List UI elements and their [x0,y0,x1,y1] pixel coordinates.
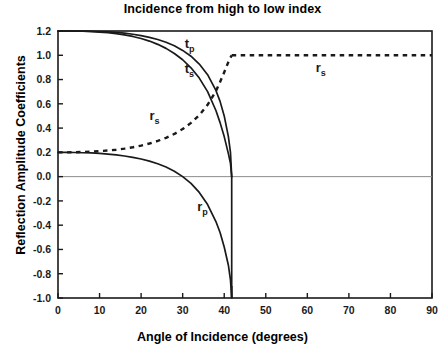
y-tick-label: -0.2 [33,195,51,207]
series-r_s_pre [58,55,232,152]
x-tick-label: 20 [135,304,147,316]
x-tick-label: 40 [218,304,230,316]
y-tick-label: -0.6 [33,243,51,255]
y-tick-label: 1.2 [36,25,51,37]
curve-label-rs: rs [316,60,326,78]
curve-label-tp: tp [185,36,195,54]
x-tick-label: 50 [260,304,272,316]
y-tick-label: 0.0 [36,170,51,182]
series-r_p [58,152,232,298]
x-tick-label: 30 [177,304,189,316]
curve-label-rp: rp [197,199,208,217]
x-tick-label: 90 [426,304,438,316]
x-tick-label: 80 [385,304,397,316]
curve-label-rs: rs [149,108,159,126]
y-tick-label: 0.4 [36,122,51,134]
curve-label-ts: ts [185,61,194,79]
x-tick-label: 0 [55,304,61,316]
x-tick-label: 10 [94,304,106,316]
y-tick-label: 1.0 [36,49,51,61]
plot-canvas: 1.21.00.80.60.40.20.0-0.2-0.4-0.6-0.8-1.… [0,0,445,355]
chart-figure: Incidence from high to low index Reflect… [0,0,445,355]
y-tick-label: -0.4 [33,219,51,231]
y-tick-label: 0.2 [36,146,51,158]
series-t_s [58,31,232,177]
y-tick-label: 0.8 [36,73,51,85]
series-t_p [58,31,232,177]
y-tick-label: 0.6 [36,98,51,110]
x-tick-label: 60 [301,304,313,316]
y-tick-label: -1.0 [33,292,51,304]
y-tick-label: -0.8 [33,268,51,280]
x-tick-label: 70 [343,304,355,316]
plot-frame [58,31,432,298]
